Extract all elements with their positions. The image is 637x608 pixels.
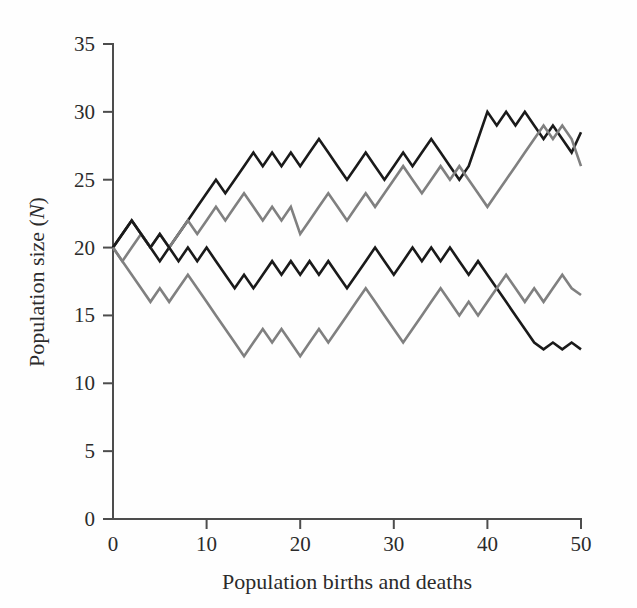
chart-figure: 05101520253035 01020304050 Population bi… — [0, 0, 637, 608]
y-axis-title: Population size (N) — [24, 197, 49, 367]
y-tick-label: 30 — [74, 100, 95, 124]
series-line-run-2-upper-gray — [113, 125, 581, 261]
y-tick-label: 0 — [85, 507, 96, 531]
x-tick-label: 20 — [290, 532, 311, 556]
x-tick-label: 0 — [108, 532, 119, 556]
x-tick-label: 10 — [196, 532, 217, 556]
y-tick-label: 25 — [74, 168, 95, 192]
series-line-run-3-lower-black — [113, 220, 581, 349]
line-chart-svg: 05101520253035 01020304050 Population bi… — [0, 0, 637, 608]
series-line-run-4-lower-gray — [113, 248, 581, 357]
svg-text:Population size (N): Population size (N) — [24, 197, 49, 367]
series-line-run-1-upper-black — [113, 112, 581, 261]
y-axis-title-text: Population size — [24, 232, 49, 367]
x-axis-ticks: 01020304050 — [108, 519, 592, 556]
data-series-group — [113, 112, 581, 356]
y-tick-label: 5 — [85, 439, 96, 463]
x-tick-label: 40 — [477, 532, 498, 556]
x-axis-title: Population births and deaths — [222, 569, 472, 594]
y-tick-label: 20 — [74, 236, 95, 260]
y-tick-label: 35 — [74, 32, 95, 56]
y-axis-title-symbol: N — [24, 203, 49, 220]
x-tick-label: 30 — [383, 532, 404, 556]
y-axis-ticks: 05101520253035 — [74, 32, 113, 531]
y-tick-label: 15 — [74, 303, 95, 327]
x-tick-label: 50 — [571, 532, 592, 556]
y-tick-label: 10 — [74, 371, 95, 395]
